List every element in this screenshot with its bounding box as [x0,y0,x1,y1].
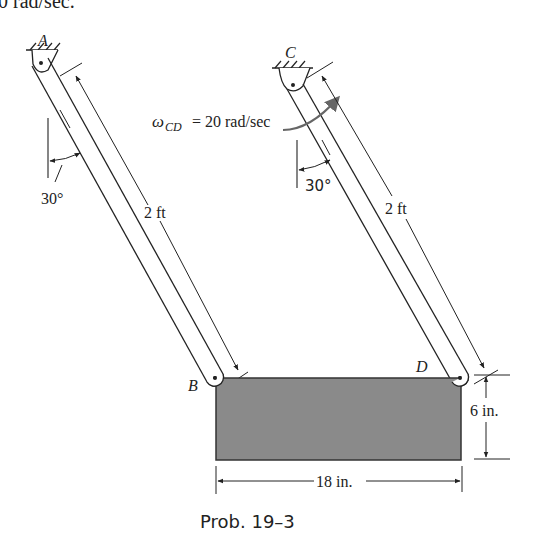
figure-caption: Prob. 19–3 [200,511,295,532]
angle-indicator-left [48,118,80,182]
label-D: D [415,358,428,375]
dimension-label-plate-width: 18 in. [316,473,352,490]
angular-velocity-value: = 20 rad/sec [192,113,270,130]
dimension-label-CD: 2 ft [385,200,407,217]
dimension-CD [307,62,498,384]
angle-label-left: 30° [41,190,63,207]
label-C: C [285,44,296,61]
omega-symbol: ω [152,112,164,131]
link-AB [32,50,224,386]
angle-label-right: 30° [305,177,332,195]
dimension-label-plate-height: 6 in. [470,402,498,419]
label-A: A [37,32,48,49]
omega-subscript: CD [165,120,182,134]
plate [216,378,461,460]
angular-velocity-arrow-icon [283,98,338,130]
label-B: B [188,377,198,394]
support-C [272,61,313,68]
header-fragment: 0 rad/sec. [0,0,75,12]
mechanism-diagram: 0 rad/sec. A 30° 2 ft [0,0,538,553]
link-CD [279,68,469,386]
dimension-label-AB: 2 ft [144,204,166,221]
